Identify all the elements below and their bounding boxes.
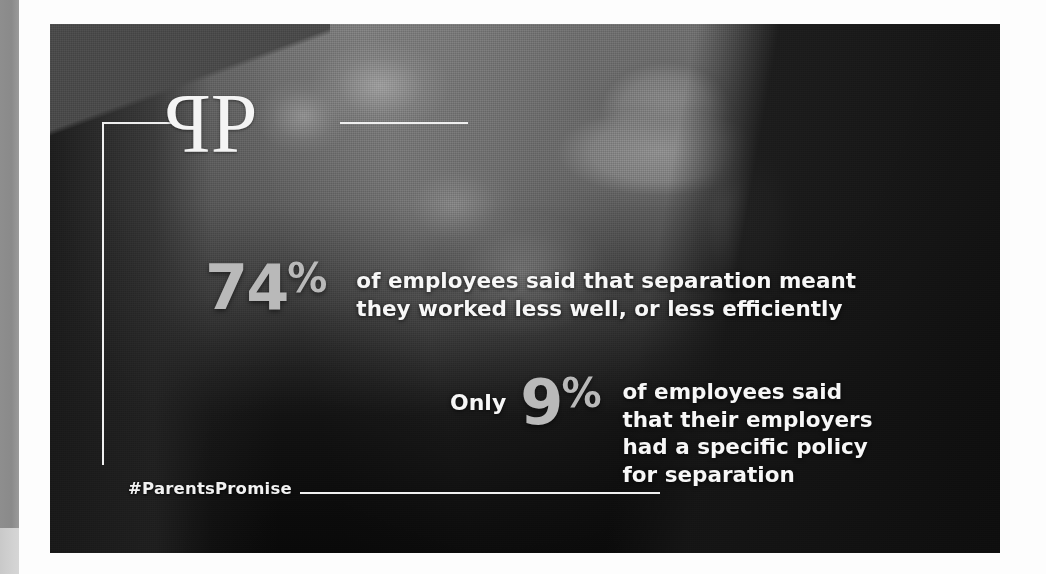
frame-rule-top-right (340, 122, 468, 124)
poster-panel: PP 74% of employees said that separation… (50, 24, 1000, 553)
frame-rule-bottom (300, 492, 660, 494)
scan-edge-strip (0, 0, 19, 528)
statistic-description-9: of employees said that their employers h… (622, 378, 872, 488)
campaign-hashtag: #ParentsPromise (128, 479, 292, 498)
statistic-number-digits: 74 (205, 251, 287, 324)
percent-sign: % (287, 255, 326, 301)
mirrored-p-icon: P (168, 82, 211, 166)
statistic-value-9: 9% (520, 376, 600, 431)
statistic-prefix-only: Only (450, 390, 506, 415)
statistic-number-digits: 9 (520, 366, 561, 439)
statistic-block-9-percent: Only 9% of employees said that their emp… (450, 376, 872, 488)
statistic-description-74: of employees said that separation meant … (356, 267, 856, 322)
upright-p-icon: P (211, 82, 254, 166)
frame-rule-vertical (102, 122, 104, 465)
statistic-block-74-percent: 74% of employees said that separation me… (205, 261, 856, 322)
percent-sign: % (561, 370, 600, 416)
parents-promise-logo: PP (168, 82, 253, 166)
frame-rule-top-left (102, 122, 174, 124)
scan-edge-strip-lower (0, 528, 19, 574)
statistic-value-74: 74% (205, 261, 326, 316)
